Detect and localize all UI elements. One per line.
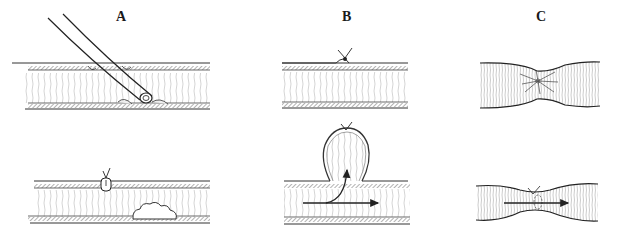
diagram-canvas <box>0 0 624 235</box>
panel-b-bottom-vessel-aneurysm <box>284 122 410 224</box>
panel-c-top-vessel-stricture <box>480 62 600 108</box>
panel-a-bottom-vessel-with-clot <box>28 168 210 223</box>
vessel-illustration-figure: A B C <box>0 0 624 235</box>
panel-b-top-vessel-ligated <box>282 48 408 108</box>
panel-a-top-vessel-with-catheter <box>12 14 210 109</box>
panel-c-bottom-vessel-flow <box>476 184 598 221</box>
